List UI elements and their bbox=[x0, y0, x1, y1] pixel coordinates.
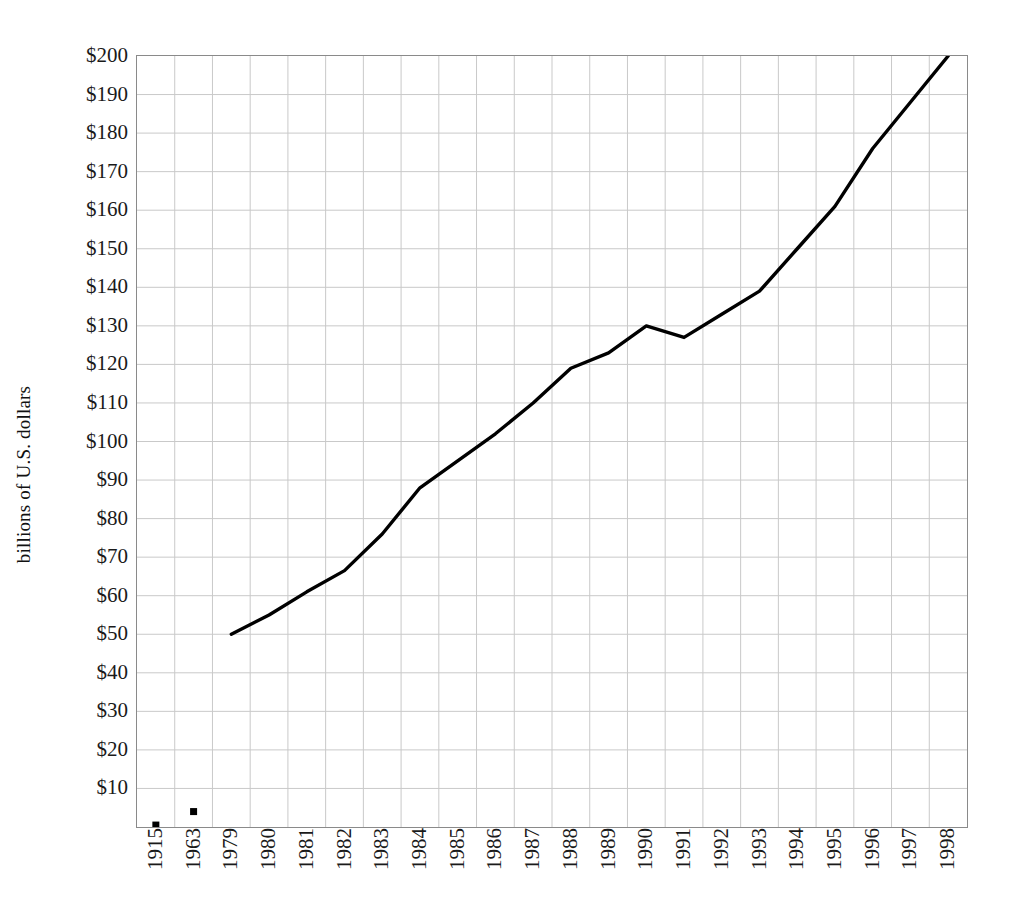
x-axis-tick-label: 1984 bbox=[408, 828, 430, 908]
x-axis-tick-label: 1963 bbox=[182, 828, 204, 908]
y-axis-tick-label: $60 bbox=[44, 585, 128, 606]
x-axis-tick-label: 1983 bbox=[370, 828, 392, 908]
x-axis-tick-label: 1995 bbox=[823, 828, 845, 908]
x-axis-tick-label: 1988 bbox=[559, 828, 581, 908]
x-axis-tick-label: 1987 bbox=[521, 828, 543, 908]
y-axis-tick-label: $180 bbox=[44, 122, 128, 143]
plot-area bbox=[136, 55, 968, 828]
y-axis-tick-label: $50 bbox=[44, 623, 128, 644]
x-axis-tick-label: 1996 bbox=[861, 828, 883, 908]
x-axis-tick-label: 1986 bbox=[483, 828, 505, 908]
x-axis-tick-label: 1981 bbox=[295, 828, 317, 908]
y-axis-tick-label: $20 bbox=[44, 739, 128, 760]
x-axis-tick-label: 1982 bbox=[333, 828, 355, 908]
y-axis-tick-label: $30 bbox=[44, 700, 128, 721]
y-axis-tick-label: $90 bbox=[44, 469, 128, 490]
x-axis-tick-label: 1994 bbox=[785, 828, 807, 908]
y-axis-tick-label: $110 bbox=[44, 392, 128, 413]
y-axis-tick-label: $140 bbox=[44, 276, 128, 297]
line-chart: billions of U.S. dollars $10$20$30$40$50… bbox=[0, 0, 1009, 909]
x-axis-tick-label: 1985 bbox=[446, 828, 468, 908]
y-axis-tick-label: $80 bbox=[44, 508, 128, 529]
y-axis-title-label: billions of U.S. dollars bbox=[13, 386, 35, 563]
y-axis-tick-label: $200 bbox=[44, 45, 128, 66]
x-axis-tick-label: 1989 bbox=[597, 828, 619, 908]
y-axis-tick-label: $160 bbox=[44, 199, 128, 220]
plot-canvas bbox=[137, 56, 967, 827]
y-axis-tick-label: $170 bbox=[44, 161, 128, 182]
y-axis-tick-label: $10 bbox=[44, 777, 128, 798]
x-axis-tick-label: 1993 bbox=[748, 828, 770, 908]
x-axis-tick-label: 1980 bbox=[257, 828, 279, 908]
x-axis-tick-label: 1990 bbox=[634, 828, 656, 908]
y-axis-tick-label: $40 bbox=[44, 662, 128, 683]
x-axis-tick-label: 1991 bbox=[672, 828, 694, 908]
data-point-marker bbox=[152, 822, 159, 827]
x-axis-tick-label: 1998 bbox=[936, 828, 958, 908]
y-axis-tick-label: $130 bbox=[44, 315, 128, 336]
y-axis-tick-label: $100 bbox=[44, 431, 128, 452]
y-axis-tick-label: $70 bbox=[44, 546, 128, 567]
x-axis-tick-labels: 1915196319791980198119821983198419851986… bbox=[136, 828, 968, 909]
y-axis-tick-label: $120 bbox=[44, 353, 128, 374]
y-axis-tick-labels: $10$20$30$40$50$60$70$80$90$100$110$120$… bbox=[40, 0, 128, 909]
x-axis-tick-label: 1992 bbox=[710, 828, 732, 908]
x-axis-tick-label: 1979 bbox=[219, 828, 241, 908]
x-axis-tick-label: 1915 bbox=[144, 828, 166, 908]
y-axis-tick-label: $150 bbox=[44, 238, 128, 259]
data-point-marker bbox=[190, 808, 197, 815]
x-axis-tick-label: 1997 bbox=[898, 828, 920, 908]
y-axis-tick-label: $190 bbox=[44, 84, 128, 105]
